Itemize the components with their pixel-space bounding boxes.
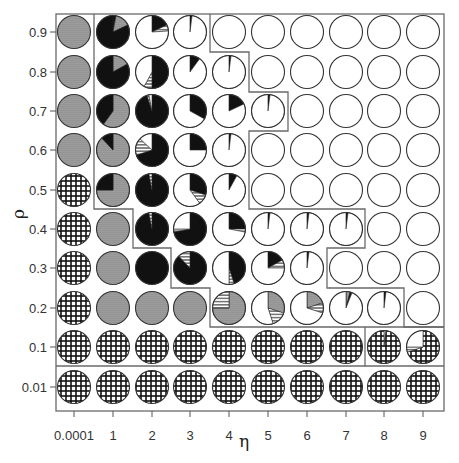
pie-cell [252,291,285,324]
y-tick-label: 0.5 [29,183,47,198]
pie-cell [291,292,324,325]
pie-cell [330,371,363,404]
pie-cell [58,16,91,49]
pie-cell [136,56,169,89]
x-tick-label: 8 [380,428,387,443]
pie-cell [368,252,401,285]
pie-cell [58,213,91,246]
pie-cell [291,56,324,89]
pie-cell [330,292,363,325]
pie-cell [368,331,401,364]
pie-cell [97,213,130,246]
pie-cell [58,252,91,285]
pie-cell [58,56,91,89]
pie-cell [291,371,324,404]
pie-cell [252,174,285,207]
y-tick-label: 0.4 [29,222,47,237]
pie-cell [330,134,363,167]
pie-cell [252,331,285,364]
pie-grid-chart: 0.90.80.70.60.50.40.30.20.10.01 0.000112… [0,0,459,463]
y-tick-label: 0.2 [29,301,47,316]
pie-cell [330,174,363,207]
pie-cell [58,134,91,167]
pie-cell [97,331,130,364]
pie-cell [252,56,285,89]
pie-cell [330,16,363,49]
y-tick-label: 0.8 [29,65,47,80]
pie-cell [251,213,284,246]
pie-cell [252,252,285,285]
pie-cell [58,95,91,128]
pie-cell [213,213,246,246]
pie-cell [368,134,401,167]
x-tick-label: 3 [186,428,193,443]
pie-cell [174,134,207,167]
pie-cell [290,213,323,246]
pie-cell [407,174,440,207]
x-tick-label: 9 [419,428,426,443]
pie-cell [368,292,401,325]
pie-cell [174,292,207,325]
x-axis-title: η [239,431,249,451]
x-tick-label: 4 [225,428,232,443]
y-tick-label: 0.1 [29,340,47,355]
pie-cell [174,331,207,364]
pie-cell [97,16,130,49]
pie-cell [407,292,440,325]
pie-cell [97,371,130,404]
x-tick-label: 1 [109,428,116,443]
pie-cell [213,252,246,285]
pie-cell [407,331,440,364]
x-tick-label: 7 [342,428,349,443]
x-tick-label: 6 [303,428,310,443]
pie-cell [213,56,246,89]
pie-cell [213,331,246,364]
pie-cell [58,331,91,364]
pie-cell [291,134,324,167]
pie-cell [252,16,285,49]
pie-cell [291,252,324,285]
pie-cell [407,95,440,128]
pie-cell [174,252,207,285]
pie-cell [174,95,207,128]
pie-cell [368,95,401,128]
pie-cell [136,331,169,364]
pie-cell [58,174,91,207]
pie-cell [135,16,168,49]
pie-cell [173,174,206,207]
pie-cell [174,371,207,404]
pie-cell [97,174,130,207]
y-axis-title: ρ [8,209,28,219]
pie-cell [58,371,91,404]
pie-cell [368,16,401,49]
pie-cell [291,174,324,207]
pie-cell [291,95,324,128]
pie-cell [97,56,130,89]
pie-cell [213,371,246,404]
y-tick-label: 0.3 [29,261,47,276]
y-tick-label: 0.01 [22,380,47,395]
pie-cell [135,95,168,128]
y-tick-label: 0.9 [29,25,47,40]
pie-cell [330,56,363,89]
pie-cell [58,292,91,325]
pie-cell [97,95,130,128]
pie-cell [407,252,440,285]
pie-cell [368,213,401,246]
pie-cell [136,252,169,285]
pie-cell [173,16,206,49]
pie-cell [330,331,363,364]
pie-cell [368,371,401,404]
pie-cell [97,252,130,285]
pie-cell [407,371,440,404]
pie-cell [136,292,169,325]
pie-cell [212,174,245,207]
pie-cell [252,134,285,167]
pie-cell [173,56,206,89]
pie-cell [407,213,440,246]
pie-cell [213,292,246,325]
pie-cell [213,16,246,49]
y-tick-label: 0.6 [29,143,47,158]
pie-cell [212,134,245,167]
pie-cell [213,95,246,128]
